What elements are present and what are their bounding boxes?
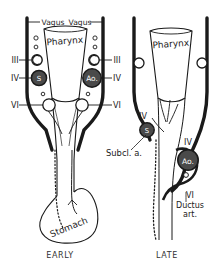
- early-vagus-left-label: Vagus: [42, 18, 65, 27]
- late-right-disc-label: Ao.: [182, 157, 194, 166]
- early-right-dot-1: [93, 36, 97, 40]
- figure-canvas: S Ao. III IV VI III IV VI Vagus Vagus Ph: [0, 0, 224, 270]
- late-right-arch3-circle: [197, 58, 207, 68]
- early-label-left-arch3: III: [11, 56, 18, 65]
- early-right-arch3-circle: [89, 55, 99, 65]
- late-label-left-arch4: IV: [139, 112, 147, 121]
- early-stomach-outline: [40, 189, 98, 244]
- early-left-disc-label: S: [37, 75, 42, 83]
- late-panel: S Ao. IV IV Pharynx Subcl. a. VI Ductus …: [106, 18, 207, 260]
- late-left-dorsal-trunk: [134, 18, 150, 140]
- early-right-dot-3: [86, 92, 90, 96]
- late-vagus-nerve-dotted: [153, 140, 156, 240]
- late-ductus-origin-ring: [184, 173, 189, 178]
- early-left-dot-3: [41, 92, 45, 96]
- aortic-arch-diagram: S Ao. III IV VI III IV VI Vagus Vagus Ph: [0, 0, 224, 270]
- late-left-arch3-circle: [134, 58, 144, 68]
- late-branch-a: [160, 100, 166, 122]
- early-left-dot-2: [34, 45, 38, 49]
- late-caption: LATE: [156, 251, 178, 260]
- early-right-dot-2: [93, 45, 97, 49]
- early-left-dot-1: [34, 36, 38, 40]
- late-left-disc-label: S: [145, 127, 149, 135]
- late-ductus-line2: art.: [183, 210, 197, 219]
- early-label-right-arch3: III: [113, 56, 120, 65]
- early-label-left-arch6: VI: [11, 101, 19, 110]
- late-ductus-numeral: VI: [186, 191, 194, 200]
- early-panel: S Ao. III IV VI III IV VI Vagus Vagus Ph: [11, 18, 121, 260]
- late-label-right-arch4: IV: [184, 138, 192, 147]
- early-caption: EARLY: [46, 251, 73, 260]
- early-right-disc-label: Ao.: [86, 74, 98, 83]
- late-ductus-line1: Ductus: [176, 201, 204, 210]
- late-branch-b: [167, 100, 170, 122]
- early-left-arch3-circle: [32, 55, 42, 65]
- early-label-right-arch6: VI: [113, 101, 121, 110]
- late-subclavian-label: Subcl. a.: [106, 148, 142, 158]
- early-vagus-right-label: Vagus: [69, 18, 92, 27]
- late-gut-left-wall: [158, 98, 159, 240]
- early-label-left-arch4: IV: [11, 74, 19, 83]
- early-label-right-arch4: IV: [113, 74, 121, 83]
- early-right-arch6-circle: [76, 99, 88, 111]
- early-left-arch6-circle: [43, 99, 55, 111]
- late-branch-c: [169, 104, 178, 124]
